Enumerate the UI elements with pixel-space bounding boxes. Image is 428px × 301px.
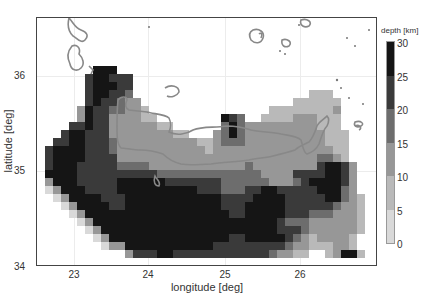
- colorbar-segment: [387, 176, 394, 210]
- x-tick-label: 24: [142, 269, 153, 280]
- colorbar-tick-label: 0: [397, 239, 403, 250]
- x-axis-label: longitude [deg]: [171, 281, 243, 293]
- colorbar-tick-label: 30: [397, 38, 408, 49]
- colorbar-tick-label: 10: [397, 172, 408, 183]
- colorbar-segment: [387, 143, 394, 177]
- map-plot-area: [36, 17, 377, 266]
- colorbar-tick-label: 15: [397, 139, 408, 150]
- y-tick-label: 34: [14, 261, 25, 272]
- coastline-outlines: [37, 18, 377, 266]
- colorbar-tick-label: 25: [397, 72, 408, 83]
- x-tick-label: 23: [68, 269, 79, 280]
- colorbar-segment: [387, 76, 394, 110]
- x-tick-label: 26: [294, 269, 305, 280]
- colorbar-segment: [387, 109, 394, 143]
- colorbar: [386, 41, 395, 244]
- colorbar-title: depth [km]: [381, 26, 418, 35]
- colorbar-tick-label: 20: [397, 105, 408, 116]
- colorbar-segment: [387, 210, 394, 244]
- colorbar-segment: [387, 42, 394, 76]
- y-axis-label: latitude [deg]: [2, 110, 14, 173]
- x-tick-label: 25: [219, 269, 230, 280]
- colorbar-tick-label: 5: [397, 206, 403, 217]
- y-tick-label: 36: [14, 70, 25, 81]
- y-tick-label: 35: [14, 165, 25, 176]
